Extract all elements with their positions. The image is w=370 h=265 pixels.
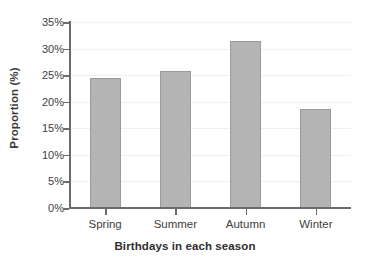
bar	[90, 78, 121, 208]
y-axis-tick-label: 15%	[42, 122, 64, 134]
bar	[230, 41, 261, 208]
bar-chart: Proportion (%) 0%5%10%15%20%25%30%35% Bi…	[0, 0, 370, 265]
y-axis-title: Proportion (%)	[0, 0, 28, 215]
x-axis-spine	[69, 207, 351, 209]
gridline	[70, 75, 351, 76]
y-axis-tick-mark	[63, 22, 69, 24]
y-axis-tick-mark	[63, 128, 69, 130]
y-axis-tick-mark	[63, 155, 69, 157]
y-axis-spine	[69, 21, 71, 209]
x-axis-title: Birthdays in each season	[0, 240, 370, 252]
bar	[160, 71, 191, 208]
gridline	[70, 22, 351, 23]
x-axis-tick-mark	[246, 209, 248, 215]
y-axis-tick-mark	[63, 102, 69, 104]
y-axis-tick-mark	[63, 49, 69, 51]
x-axis-tick-mark	[316, 209, 318, 215]
y-axis-tick-labels: 0%5%10%15%20%25%30%35%	[26, 0, 68, 215]
y-axis-title-label: Proportion (%)	[8, 67, 20, 148]
x-axis-tick-label: Winter	[299, 218, 332, 230]
y-axis-tick-label: 25%	[42, 69, 64, 81]
y-axis-tick-label: 5%	[48, 175, 64, 187]
x-axis-tick-mark	[105, 209, 107, 215]
y-axis-tick-mark	[63, 75, 69, 77]
y-axis-tick-mark	[63, 208, 69, 210]
y-axis-tick-label: 0%	[48, 202, 64, 214]
x-axis-tick-mark	[175, 209, 177, 215]
y-axis-tick-label: 20%	[42, 96, 64, 108]
y-axis-tick-label: 35%	[42, 16, 64, 28]
x-axis-tick-label: Spring	[89, 218, 122, 230]
x-axis-tick-label: Autumn	[226, 218, 266, 230]
x-axis-tick-label: Summer	[154, 218, 197, 230]
gridline	[70, 49, 351, 50]
plot-area	[70, 22, 351, 208]
y-axis-tick-label: 30%	[42, 43, 64, 55]
y-axis-tick-label: 10%	[42, 149, 64, 161]
bar	[300, 109, 331, 208]
y-axis-tick-mark	[63, 181, 69, 183]
